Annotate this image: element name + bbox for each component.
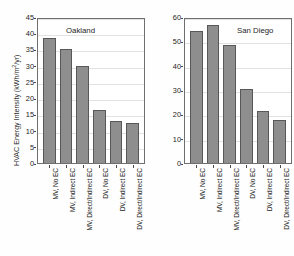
y-tick-mark-oakland-30: [34, 66, 37, 67]
bar-group-sandiego: [185, 19, 291, 163]
y-tick-mark-oakland-35: [34, 50, 37, 51]
x-tick-mark-oakland-0: [49, 165, 50, 168]
x-tick-mark-sandiego-1: [213, 165, 214, 168]
y-tick-mark-sandiego-20: [181, 115, 184, 116]
y-tick-mark-sandiego-60: [181, 18, 184, 19]
x-tick-label-text-oakland-0: MV, No EC: [52, 168, 59, 199]
bar-oakland-0: [43, 38, 56, 163]
plot-area-sandiego: San Diego: [184, 18, 292, 164]
x-tick-mark-oakland-5: [133, 165, 134, 168]
y-tick-mark-oakland-15: [34, 115, 37, 116]
x-tick-mark-sandiego-2: [230, 165, 231, 168]
bar-oakland-4: [110, 121, 123, 164]
x-tick-mark-sandiego-0: [196, 165, 197, 168]
bar-oakland-5: [126, 123, 139, 163]
x-tick-label-text-oakland-5: DV, Direct/Indirect EC: [136, 168, 143, 230]
y-tick-mark-oakland-40: [34, 34, 37, 35]
y-tick-mark-oakland-20: [34, 99, 37, 100]
y-tick-mark-oakland-10: [34, 131, 37, 132]
x-tick-mark-oakland-4: [116, 165, 117, 168]
x-tick-label-text-oakland-4: DV, Indirect EC: [119, 168, 126, 211]
x-tick-label-text-sandiego-0: MV, No EC: [199, 168, 206, 199]
bar-sandiego-5: [273, 120, 286, 163]
x-tick-mark-sandiego-4: [263, 165, 264, 168]
plot-area-oakland: Oakland: [37, 18, 145, 164]
y-axis-label-group: HVAC Energy Intensity (kWh/m2/yr): [0, 14, 14, 169]
x-tick-label-text-oakland-2: MV, Direct/Indirect EC: [86, 168, 93, 230]
x-tick-mark-oakland-3: [99, 165, 100, 168]
bar-sandiego-1: [207, 25, 220, 163]
y-tick-mark-sandiego-40: [181, 66, 184, 67]
y-tick-mark-oakland-5: [34, 147, 37, 148]
y-tick-mark-oakland-45: [34, 18, 37, 19]
x-tick-label-text-sandiego-5: DV, Direct/Indirect EC: [283, 168, 290, 230]
x-tick-mark-sandiego-5: [280, 165, 281, 168]
bar-sandiego-3: [240, 89, 253, 163]
x-tick-label-text-sandiego-4: DV, Indirect EC: [266, 168, 273, 211]
x-tick-label-text-sandiego-3: DV, No EC: [249, 168, 256, 199]
y-axis-ticks-sandiego: 0102030405060: [163, 18, 183, 164]
y-tick-mark-sandiego-30: [181, 91, 184, 92]
figure-bar-charts-hvac-energy-intensity: HVAC Energy Intensity (kWh/m2/yr) 051015…: [0, 0, 294, 256]
bar-sandiego-0: [190, 31, 203, 163]
x-tick-mark-oakland-1: [66, 165, 67, 168]
x-axis-categories-sandiego: MV, No ECMV, Indirect ECMV, Direct/Indir…: [184, 165, 292, 256]
bar-sandiego-4: [257, 111, 270, 163]
bar-oakland-1: [60, 49, 73, 163]
bar-oakland-2: [76, 66, 89, 163]
x-tick-label-text-sandiego-2: MV, Direct/Indirect EC: [233, 168, 240, 230]
bar-sandiego-2: [223, 45, 236, 163]
x-axis-categories-oakland: MV, No ECMV, Indirect ECMV, Direct/Indir…: [37, 165, 145, 256]
y-tick-mark-oakland-25: [34, 82, 37, 83]
x-tick-label-text-oakland-3: DV, No EC: [102, 168, 109, 199]
y-tick-mark-oakland-0: [34, 164, 37, 165]
x-tick-mark-sandiego-3: [246, 165, 247, 168]
bar-oakland-3: [93, 110, 106, 163]
x-tick-mark-oakland-2: [83, 165, 84, 168]
x-tick-label-text-oakland-1: MV, Indirect EC: [69, 168, 76, 212]
y-tick-mark-sandiego-50: [181, 42, 184, 43]
y-tick-mark-sandiego-10: [181, 139, 184, 140]
y-tick-mark-sandiego-0: [181, 164, 184, 165]
x-tick-label-text-sandiego-1: MV, Indirect EC: [216, 168, 223, 212]
bar-group-oakland: [38, 19, 144, 163]
y-axis-ticks-oakland: 051015202530354045: [16, 18, 36, 164]
